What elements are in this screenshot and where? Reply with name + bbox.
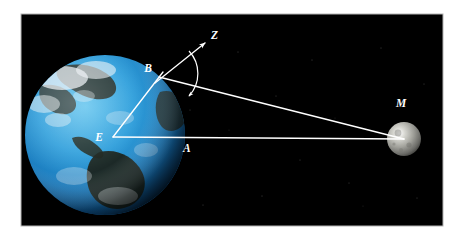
point-label-Z: Z [210,29,218,41]
point-label-E: E [94,131,103,143]
figure-root: E B A Z M [0,0,464,242]
point-label-A: A [182,142,191,154]
parallax-diagram: E B A Z M [0,0,464,242]
point-label-B: B [143,62,152,74]
point-label-M: M [395,97,407,109]
earth-globe [25,55,186,215]
